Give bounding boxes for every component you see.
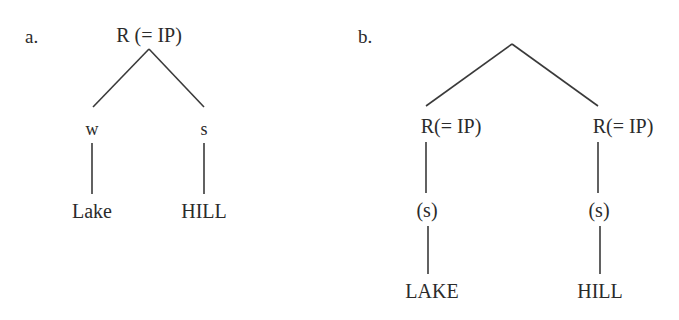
panel-b-left-leaf-label: LAKE	[405, 280, 458, 302]
panel-b-edge-root-to-right-r	[512, 44, 598, 106]
panel-a-label: a.	[25, 26, 38, 47]
panel-a-root-label: R (= IP)	[116, 24, 182, 47]
panel-b-right-mid-label: (s)	[588, 199, 609, 222]
panel-b-label: b.	[358, 26, 372, 47]
panel-a-right-branch-label: s	[200, 119, 207, 139]
panel-a: a. R (= IP) w s Lake HILL	[25, 24, 227, 222]
tree-diagram-canvas: a. R (= IP) w s Lake HILL b. R(= IP) R(=…	[0, 0, 679, 320]
panel-a-left-branch-label: w	[86, 119, 99, 139]
panel-b-right-branch-label: R(= IP)	[593, 115, 654, 138]
panel-a-left-leaf-label: Lake	[72, 200, 112, 222]
panel-b: b. R(= IP) R(= IP) (s) (s) LAKE HILL	[358, 26, 653, 302]
panel-a-edge-root-to-s	[149, 49, 204, 107]
panel-a-right-leaf-label: HILL	[181, 200, 227, 222]
panel-b-edge-root-to-left-r	[426, 44, 512, 106]
panel-a-edge-root-to-w	[93, 49, 149, 107]
panel-b-right-leaf-label: HILL	[577, 280, 623, 302]
panel-b-left-branch-label: R(= IP)	[421, 115, 482, 138]
figure-root: a. R (= IP) w s Lake HILL b. R(= IP) R(=…	[0, 0, 679, 320]
panel-b-left-mid-label: (s)	[416, 199, 437, 222]
